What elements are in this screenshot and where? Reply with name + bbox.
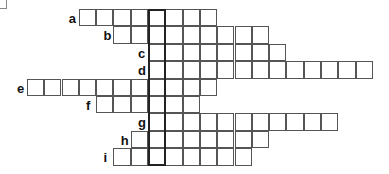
cell-f-1[interactable] — [96, 96, 113, 113]
cell-d-6[interactable] — [235, 61, 252, 78]
cell-b-1[interactable] — [113, 26, 130, 43]
cell-e-7[interactable] — [131, 79, 148, 96]
cell-b-8[interactable] — [235, 26, 252, 43]
cell-d-7[interactable] — [252, 61, 269, 78]
cell-b-2[interactable] — [131, 26, 148, 43]
cell-i-3[interactable] — [148, 148, 165, 165]
cell-i-2[interactable] — [131, 148, 148, 165]
row-label-g: g — [138, 116, 146, 129]
cell-b-3[interactable] — [148, 26, 165, 43]
cell-g-5[interactable] — [217, 113, 234, 130]
cell-h-5[interactable] — [200, 131, 217, 148]
cell-d-5[interactable] — [217, 61, 234, 78]
cell-d-13[interactable] — [356, 61, 373, 78]
cell-h-8[interactable] — [252, 131, 269, 148]
cell-f-4[interactable] — [148, 96, 165, 113]
cell-g-1[interactable] — [148, 113, 165, 130]
cell-a-3[interactable] — [113, 9, 130, 26]
cell-d-1[interactable] — [148, 61, 165, 78]
cell-c-3[interactable] — [183, 44, 200, 61]
cell-h-4[interactable] — [183, 131, 200, 148]
cell-h-3[interactable] — [165, 131, 182, 148]
cell-e-5[interactable] — [96, 79, 113, 96]
row-label-c: c — [138, 47, 145, 60]
cell-e-2[interactable] — [44, 79, 61, 96]
cell-a-8[interactable] — [200, 9, 217, 26]
cell-e-1[interactable] — [27, 79, 44, 96]
cell-h-6[interactable] — [217, 131, 234, 148]
cell-b-9[interactable] — [252, 26, 269, 43]
cell-i-8[interactable] — [235, 148, 252, 165]
cell-b-4[interactable] — [165, 26, 182, 43]
row-label-f: f — [86, 99, 90, 112]
row-label-b: b — [103, 29, 111, 42]
cell-b-6[interactable] — [200, 26, 217, 43]
cell-c-8[interactable] — [269, 44, 286, 61]
cell-h-7[interactable] — [235, 131, 252, 148]
cell-c-5[interactable] — [217, 44, 234, 61]
row-label-a: a — [69, 12, 76, 25]
cell-a-7[interactable] — [183, 9, 200, 26]
cell-d-3[interactable] — [183, 61, 200, 78]
cell-c-4[interactable] — [200, 44, 217, 61]
row-label-i: i — [103, 151, 107, 164]
cell-c-1[interactable] — [148, 44, 165, 61]
cell-d-4[interactable] — [200, 61, 217, 78]
cell-d-11[interactable] — [321, 61, 338, 78]
cell-c-7[interactable] — [252, 44, 269, 61]
cell-d-8[interactable] — [269, 61, 286, 78]
cell-g-11[interactable] — [321, 113, 338, 130]
cell-f-3[interactable] — [131, 96, 148, 113]
cell-d-2[interactable] — [165, 61, 182, 78]
cell-i-4[interactable] — [165, 148, 182, 165]
row-label-d: d — [138, 64, 146, 77]
cell-b-7[interactable] — [217, 26, 234, 43]
cell-d-9[interactable] — [286, 61, 303, 78]
cell-c-6[interactable] — [235, 44, 252, 61]
cell-e-3[interactable] — [62, 79, 79, 96]
cell-g-9[interactable] — [286, 113, 303, 130]
cell-g-10[interactable] — [304, 113, 321, 130]
row-label-e: e — [17, 82, 24, 95]
cell-g-4[interactable] — [200, 113, 217, 130]
cell-a-4[interactable] — [131, 9, 148, 26]
cell-a-6[interactable] — [165, 9, 182, 26]
cell-i-1[interactable] — [113, 148, 130, 165]
cell-h-2[interactable] — [148, 131, 165, 148]
cell-h-1[interactable] — [131, 131, 148, 148]
cell-e-11[interactable] — [200, 79, 217, 96]
cell-e-10[interactable] — [183, 79, 200, 96]
cell-g-8[interactable] — [269, 113, 286, 130]
cell-g-3[interactable] — [183, 113, 200, 130]
cell-a-5[interactable] — [148, 9, 165, 26]
cell-d-12[interactable] — [338, 61, 355, 78]
cell-d-10[interactable] — [304, 61, 321, 78]
cell-e-9[interactable] — [165, 79, 182, 96]
cell-a-2[interactable] — [96, 9, 113, 26]
cell-e-8[interactable] — [148, 79, 165, 96]
cell-e-4[interactable] — [79, 79, 96, 96]
cell-g-2[interactable] — [165, 113, 182, 130]
cell-c-2[interactable] — [165, 44, 182, 61]
cell-i-7[interactable] — [217, 148, 234, 165]
cell-f-6[interactable] — [183, 96, 200, 113]
cell-g-7[interactable] — [252, 113, 269, 130]
cell-e-6[interactable] — [113, 79, 130, 96]
cell-g-6[interactable] — [235, 113, 252, 130]
cell-f-5[interactable] — [165, 96, 182, 113]
cell-f-2[interactable] — [113, 96, 130, 113]
row-label-h: h — [121, 134, 129, 147]
cell-a-1[interactable] — [79, 9, 96, 26]
corner-mark — [0, 0, 7, 9]
cell-i-5[interactable] — [183, 148, 200, 165]
cell-b-5[interactable] — [183, 26, 200, 43]
cell-i-6[interactable] — [200, 148, 217, 165]
